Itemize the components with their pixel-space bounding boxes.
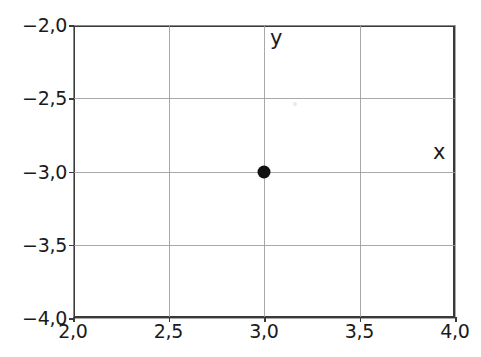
- axis-spine-top: [73, 25, 455, 27]
- y-axis-tick: [69, 25, 74, 27]
- x-axis-tick-label: 4,0: [440, 322, 469, 341]
- y-axis-tick: [69, 98, 74, 100]
- gridline-horizontal: [73, 98, 455, 99]
- x-axis-tick-label: 2,5: [154, 322, 183, 341]
- y-axis-tick-label: −4,0: [22, 309, 67, 328]
- chart-figure: 2,02,53,03,54,0 −4,0−3,5−3,0−2,5−2,0 y x: [0, 0, 481, 357]
- y-axis-tick: [69, 172, 74, 174]
- x-axis-label: x: [433, 142, 445, 163]
- gridline-vertical: [455, 25, 456, 318]
- gridline-vertical: [360, 25, 361, 318]
- y-axis-tick-label: −3,0: [22, 162, 67, 181]
- y-axis-label: y: [270, 28, 282, 49]
- x-axis-tick-label: 3,0: [249, 322, 278, 341]
- axis-spine-right: [453, 25, 455, 318]
- y-axis-tick-label: −2,0: [22, 16, 67, 35]
- scan-artifact-speck: [293, 102, 297, 106]
- y-axis-tick: [69, 245, 74, 247]
- x-axis-tick-label: 3,5: [345, 322, 374, 341]
- gridline-vertical: [169, 25, 170, 318]
- data-point-marker: [258, 165, 271, 178]
- gridline-horizontal: [73, 245, 455, 246]
- plot-area: [73, 25, 455, 318]
- y-axis-tick-label: −3,5: [22, 235, 67, 254]
- y-axis-tick-label: −2,5: [22, 89, 67, 108]
